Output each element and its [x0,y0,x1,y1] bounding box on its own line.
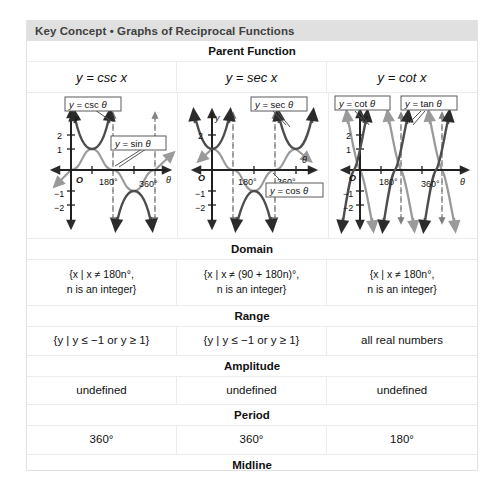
callout-csc: y = csc θ [65,97,121,111]
svg-text:y = tan θ: y = tan θ [404,98,442,109]
key-concept-card: Key Concept • Graphs of Reciprocal Funct… [26,20,478,471]
section-header-midline: Midline [27,455,477,471]
origin-label: O [76,175,83,185]
period-sec: 360° [177,426,327,454]
callout-sec: y = sec θ [251,97,307,111]
cotangent-graph: O y θ 2 1 −1 −2 180° 360° [329,93,478,238]
svg-text:y = cos θ: y = cos θ [269,185,309,196]
origin-label: O [349,173,356,183]
y-tick-2: 2 [198,131,203,141]
section-header-parent-function: Parent Function [27,41,477,62]
card-header-title: Key Concept • Graphs of Reciprocal Funct… [35,25,295,37]
domain-row: {x | x ≠ 180n°, n is an integer} {x | x … [27,260,477,307]
period-row: 360° 360° 180° [27,426,477,455]
callout-cot: y = cot θ [335,96,390,110]
cotangent-graph-svg: O y θ 2 1 −1 −2 180° 360° [329,93,478,238]
svg-text:y = cot θ: y = cot θ [338,98,376,109]
amplitude-csc: undefined [27,377,177,405]
x-tick-360: 360° [139,179,158,189]
range-row: {y | y ≤ −1 or y ≥ 1} {y | y ≤ −1 or y ≥… [27,327,477,356]
y-tick-neg2: −2 [195,203,205,213]
y-tick-neg1: −1 [195,189,205,199]
function-title-csc-text: y = csc x [76,70,127,85]
y-tick-neg2: −2 [54,203,64,213]
function-title-csc: y = csc x [27,62,177,92]
y-tick-2: 2 [57,131,62,141]
cosecant-graph: O y θ 2 1 −1 −2 180° 360° [27,93,178,238]
y-tick-1: 1 [346,145,351,155]
function-title-row: y = csc x y = sec x y = cot x [27,62,477,93]
x-tick-180: 180° [99,177,118,187]
y-axis-label: y [214,113,220,123]
range-sec: {y | y ≤ −1 or y ≥ 1} [177,327,327,355]
y-tick-1: 1 [57,145,62,155]
section-header-range: Range [27,306,477,327]
function-title-cot: y = cot x [327,62,477,92]
domain-cot: {x | x ≠ 180n°, n is an integer} [327,260,477,306]
amplitude-row: undefined undefined undefined [27,377,477,406]
range-csc: {y | y ≤ −1 or y ≥ 1} [27,327,177,355]
range-cot: all real numbers [327,327,477,355]
card-header: Key Concept • Graphs of Reciprocal Funct… [27,21,477,41]
amplitude-sec: undefined [177,377,327,405]
x-tick-180: 180° [379,177,398,187]
y-tick-neg2: −2 [343,203,353,213]
domain-csc: {x | x ≠ 180n°, n is an integer} [27,260,177,306]
cosecant-graph-svg: O y θ 2 1 −1 −2 180° 360° [27,93,177,238]
x-tick-180: 180° [238,177,257,187]
amplitude-cot: undefined [327,377,477,405]
y-tick-neg1: −1 [343,189,353,199]
origin-label: O [198,173,205,183]
period-csc: 360° [27,426,177,454]
function-title-cot-text: y = cot x [378,70,427,85]
function-title-sec-text: y = sec x [226,70,278,85]
y-tick-neg1: −1 [54,189,64,199]
period-cot: 180° [327,426,477,454]
function-title-sec: y = sec x [177,62,327,92]
svg-text:y = sin θ: y = sin θ [114,138,151,149]
graph-row: O y θ 2 1 −1 −2 180° 360° [27,93,477,239]
section-header-amplitude: Amplitude [27,356,477,377]
x-axis-label: θ [460,177,465,187]
y-tick-2: 2 [346,131,351,141]
x-tick-360: 360° [421,179,440,189]
svg-text:y = sec θ: y = sec θ [254,99,294,110]
x-axis-label: θ [302,155,307,165]
callout-sin: y = sin θ [111,136,166,150]
secant-graph-svg: O y θ 2 −1 −2 180° 360° y = sec θ [178,93,328,238]
secant-graph: O y θ 2 −1 −2 180° 360° y = sec θ [178,93,329,238]
domain-sec: {x | x ≠ (90 + 180n)°, n is an integer} [177,260,327,306]
callout-cos: y = cos θ [266,183,323,197]
x-axis-label: θ [166,175,171,185]
callout-tan: y = tan θ [401,96,457,110]
section-header-domain: Domain [27,239,477,260]
section-header-period: Period [27,405,477,426]
y-axis-label: y [73,113,79,123]
svg-text:y = csc θ: y = csc θ [68,99,107,110]
